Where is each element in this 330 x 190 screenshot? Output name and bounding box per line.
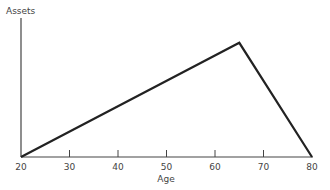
- x-tick-label: 50: [161, 162, 173, 172]
- x-tick-label: 40: [112, 162, 124, 172]
- x-tick-label: 60: [209, 162, 221, 172]
- assets-line: [21, 43, 312, 157]
- x-axis-label: Age: [157, 174, 175, 184]
- x-tick-label: 70: [258, 162, 270, 172]
- plot-area: 20304050607080 Assets Age: [0, 0, 330, 190]
- x-tick-label: 30: [64, 162, 76, 172]
- x-tick-label: 20: [15, 162, 27, 172]
- x-axis-ticks: 20304050607080: [15, 150, 318, 172]
- y-axis-label: Assets: [6, 6, 36, 16]
- x-tick-label: 80: [306, 162, 318, 172]
- assets-by-age-chart: 20304050607080 Assets Age: [0, 0, 330, 190]
